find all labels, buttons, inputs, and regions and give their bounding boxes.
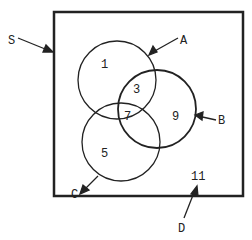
region-b-only: 9 [172,110,179,124]
circle-b [118,70,196,148]
label-a: A [180,34,188,48]
circle-c [82,103,160,181]
region-a-only: 1 [101,58,108,72]
arrow-a [153,38,178,52]
label-d: D [178,222,185,236]
venn-diagram: S A B C D 1 3 7 9 5 11 [0,0,252,240]
region-a-and-b: 3 [133,83,140,97]
label-s: S [8,34,15,48]
label-b: B [218,114,225,128]
region-a-b-c: 7 [124,110,131,124]
region-c-only: 5 [101,147,108,161]
label-c: C [71,188,78,202]
region-outside: 11 [191,170,205,184]
circle-a [78,41,156,119]
